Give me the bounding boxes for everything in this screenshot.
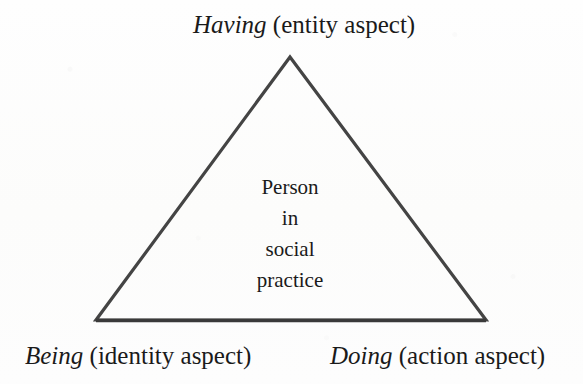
vertex-term-being: Being xyxy=(25,342,83,369)
center-caption-line: Person xyxy=(191,172,389,203)
vertex-term-having: Having xyxy=(193,11,267,38)
center-caption-line: practice xyxy=(191,265,389,296)
vertex-gloss-doing: (action aspect) xyxy=(393,342,546,369)
center-caption-line: social xyxy=(191,234,389,265)
vertex-label-being: Being (identity aspect) xyxy=(25,343,251,368)
figure-canvas: Having (entity aspect) Being (identity a… xyxy=(0,0,583,384)
vertex-label-having: Having (entity aspect) xyxy=(193,12,415,37)
center-caption-line: in xyxy=(191,203,389,234)
vertex-gloss-having: (entity aspect) xyxy=(267,11,416,38)
center-caption: Person in social practice xyxy=(191,172,389,296)
vertex-gloss-being: (identity aspect) xyxy=(83,342,251,369)
vertex-label-doing: Doing (action aspect) xyxy=(330,343,545,368)
vertex-term-doing: Doing xyxy=(330,342,393,369)
